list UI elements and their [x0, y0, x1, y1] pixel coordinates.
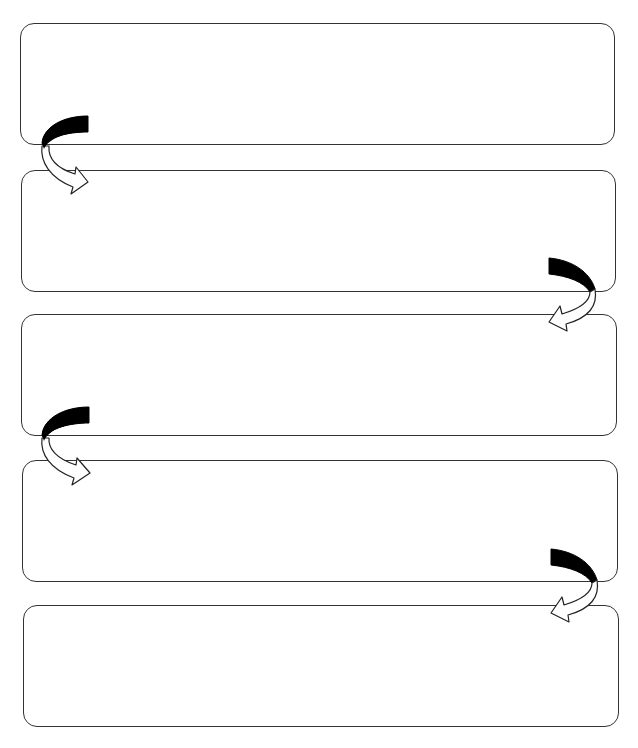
step-box-4 — [22, 460, 618, 582]
step-box-1 — [20, 23, 615, 145]
step-box-2 — [21, 170, 616, 292]
step-box-5 — [23, 605, 619, 727]
step-box-3 — [21, 314, 617, 436]
